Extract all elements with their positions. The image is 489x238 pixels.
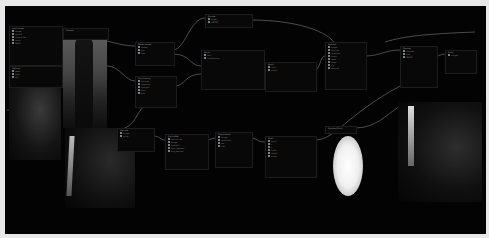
slot-label: denoise [328,67,339,70]
node-slot[interactable]: high [216,145,252,148]
node-slot[interactable]: scale [118,135,154,138]
slot-dot-icon[interactable] [328,52,330,54]
node-slot[interactable]: cfg [10,76,62,79]
slot-dot-icon[interactable] [168,144,170,146]
slot-dot-icon[interactable] [204,54,206,56]
graph-node[interactable]: Gradient Mask [325,126,357,134]
slot-dot-icon[interactable] [138,80,140,82]
slot-dot-icon[interactable] [12,36,14,38]
graph-node[interactable]: Grouptextconditioning [201,50,265,90]
node-slot[interactable]: images [446,54,476,57]
slot-dot-icon[interactable] [12,39,14,41]
slot-dot-icon[interactable] [168,147,170,149]
slot-dot-icon[interactable] [12,70,14,72]
graph-node[interactable]: Settingsseedstepscfg [9,66,63,88]
node-slot[interactable]: IMAGE [401,56,437,59]
slot-dot-icon[interactable] [138,52,140,54]
slot-dot-icon[interactable] [328,58,330,60]
slot-dot-icon[interactable] [268,146,270,148]
graph-node[interactable]: Preprocessorimageresolutionlowhigh [215,132,253,168]
slot-label: conditioning [204,57,219,60]
graph-node[interactable]: Conditioningpositivenegativestrengthstar… [135,76,177,108]
slot-dot-icon[interactable] [12,73,14,75]
slot-dot-icon[interactable] [403,50,405,52]
slot-dot-icon[interactable] [208,21,210,23]
node-slot[interactable]: vae [136,52,174,55]
graph-node[interactable]: Upscaleimagescale [117,128,155,152]
slot-dot-icon[interactable] [328,61,330,63]
slot-dot-icon[interactable] [218,142,220,144]
slot-dot-icon[interactable] [328,49,330,51]
graph-node[interactable]: Preview [63,28,109,40]
node-slot[interactable]: end_percent [166,150,208,153]
slot-label: value [268,155,276,158]
graph-node[interactable]: EncodepixelsLATENT [205,14,253,28]
slot-dot-icon[interactable] [138,46,140,48]
slot-dot-icon[interactable] [268,155,270,157]
slot-dot-icon[interactable] [268,69,270,71]
node-slot[interactable]: conditioning [202,57,264,60]
slot-label: cfg [12,76,18,79]
slot-label: LATENT [208,21,219,24]
slot-dot-icon[interactable] [12,76,14,78]
slot-dot-icon[interactable] [168,141,170,143]
slot-dot-icon[interactable] [138,83,140,85]
slot-label: high [218,145,225,148]
slot-dot-icon[interactable] [403,53,405,55]
slot-dot-icon[interactable] [328,55,330,57]
image-preview-left [9,88,61,160]
graph-node[interactable]: Applyinputoutput [265,62,317,92]
slot-dot-icon[interactable] [168,150,170,152]
slot-dot-icon[interactable] [204,57,206,59]
graph-node[interactable]: Saveimages [445,50,477,74]
slot-dot-icon[interactable] [328,67,330,69]
image-preview-right [398,102,482,202]
graph-node[interactable]: Samplermodelpositivenegativelatentseedst… [325,42,367,90]
slot-dot-icon[interactable] [218,139,220,141]
slot-dot-icon[interactable] [12,33,14,35]
node-title: Gradient Mask [326,127,356,130]
slot-dot-icon[interactable] [120,135,122,137]
slot-label: output [268,69,278,72]
graph-canvas[interactable]: Load Imageimageuploadchoose filemaskMASK… [5,6,486,234]
slot-dot-icon[interactable] [218,136,220,138]
graph-node[interactable]: Load Imageimageuploadchoose filemaskMASK [9,26,63,66]
slot-dot-icon[interactable] [268,149,270,151]
slot-dot-icon[interactable] [268,152,270,154]
slot-dot-icon[interactable] [138,92,140,94]
node-slot[interactable]: end [136,92,176,95]
slot-label: vae [138,52,145,55]
slot-dot-icon[interactable] [328,64,330,66]
slot-dot-icon[interactable] [268,140,270,142]
slot-dot-icon[interactable] [138,89,140,91]
slot-dot-icon[interactable] [138,49,140,51]
node-slot[interactable]: output [266,69,316,72]
graph-node[interactable]: ControlNetcontrol_netimagestrengthstart_… [165,134,209,170]
node-slot[interactable]: denoise [326,67,366,70]
image-preview-top-left [63,38,107,128]
slot-dot-icon[interactable] [12,30,14,32]
slot-dot-icon[interactable] [448,54,450,56]
mask-preview [333,136,363,196]
slot-dot-icon[interactable] [403,56,405,58]
slot-dot-icon[interactable] [268,143,270,145]
slot-dot-icon[interactable] [218,145,220,147]
slot-dot-icon[interactable] [138,86,140,88]
graph-node[interactable]: Model Loadermodelclipvae [135,42,175,66]
node-slot[interactable]: value [266,155,316,158]
slot-dot-icon[interactable] [268,66,270,68]
slot-dot-icon[interactable] [120,132,122,134]
slot-label: end [138,92,145,95]
slot-label: images [448,54,458,57]
graph-node[interactable]: Maskmaskxywidthheightvalue [265,136,317,178]
node-slot[interactable]: LATENT [206,21,252,24]
slot-dot-icon[interactable] [12,42,14,44]
node-title: Preview [64,29,108,32]
slot-label: scale [120,135,128,138]
slot-dot-icon[interactable] [328,46,330,48]
slot-label: IMAGE [403,56,412,59]
node-slot[interactable]: MASK [10,42,62,45]
slot-dot-icon[interactable] [168,138,170,140]
slot-dot-icon[interactable] [208,18,210,20]
graph-node[interactable]: DecodesamplesvaeIMAGE [400,46,438,88]
